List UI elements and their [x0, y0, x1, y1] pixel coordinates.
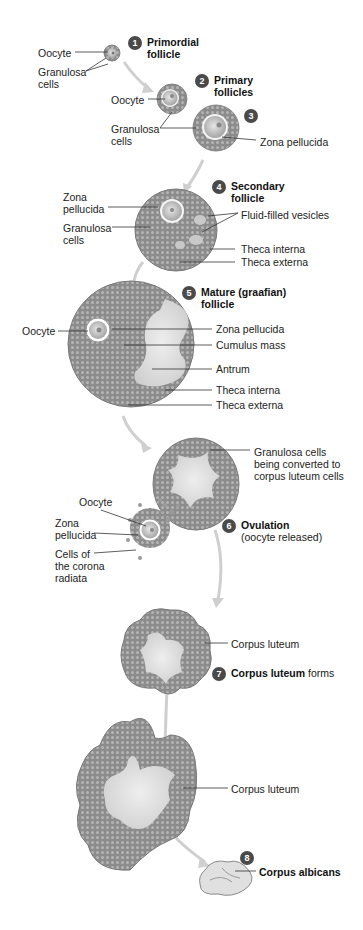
primary-follicle-late [193, 105, 239, 151]
label-corpus-luteum-7: Corpus luteum [231, 638, 299, 650]
secondary-follicle [135, 189, 217, 271]
label-cumulus-mass: Cumulus mass [216, 339, 285, 351]
label-theca-interna-5: Theca interna [216, 384, 280, 396]
stage-4-title: 4 Secondary follicle [212, 180, 285, 204]
label-granulosa-1a: Granulosa [38, 66, 86, 78]
label-granulosa-6a: Granulosa cells [254, 446, 326, 458]
step-badge-4: 4 [212, 180, 226, 194]
stage-6-title: 6 Ovulation (oocyte released) [222, 519, 322, 543]
ovarian-cycle-diagram: 1 Primordial follicle Oocyte Granulosa c… [0, 0, 363, 930]
stage-6-title-rest: (oocyte released) [241, 531, 322, 543]
label-granulosa-4b: cells [63, 234, 84, 246]
stage-3-title: 3 [244, 109, 258, 123]
label-theca-interna-4: Theca interna [241, 243, 305, 255]
corpus-luteum [76, 718, 196, 870]
stage-4-title-line2: follicle [231, 192, 264, 204]
stage-2-title: 2 Primary follicles [195, 74, 253, 98]
stage-8-badge-wrap: 8 [240, 851, 254, 865]
label-fluid-vesicles: Fluid-filled vesicles [241, 209, 329, 221]
label-zona-pellucida-5: Zona pellucida [216, 323, 284, 335]
label-theca-externa-5: Theca externa [216, 399, 283, 411]
stage-7-title-rest: forms [308, 667, 334, 679]
label-antrum: Antrum [216, 363, 250, 375]
mature-graafian-follicle [68, 281, 194, 407]
stage-8-title: Corpus albicans [259, 866, 341, 878]
stage-7-title-bold: Corpus luteum [231, 667, 305, 679]
stage-5-title-line1: Mature (graafian) [201, 286, 286, 298]
stage-5-title: 5 Mature (graafian) follicle [182, 286, 286, 310]
label-granulosa-6b: being converted to [254, 458, 340, 470]
label-granulosa-2a: Granulosa [111, 123, 159, 135]
label-granulosa-6c: corpus luteum cells [254, 470, 344, 482]
label-theca-externa-4: Theca externa [241, 256, 308, 268]
label-corona-6b: the corona [55, 560, 105, 572]
label-granulosa-1b: cells [38, 78, 59, 90]
label-corpus-luteum-8: Corpus luteum [231, 783, 299, 795]
stage-1-title: 1 Primordial follicle [128, 36, 199, 60]
primordial-follicle [104, 45, 120, 61]
stage-7-title: 7 Corpus luteum forms [212, 667, 334, 681]
label-zona-4b: pellucida [63, 203, 104, 215]
step-badge-6: 6 [222, 519, 236, 533]
label-corona-6c: radiata [55, 572, 87, 584]
label-oocyte-1: Oocyte [38, 47, 71, 59]
corpus-albicans [200, 861, 252, 895]
label-granulosa-4a: Granulosa [63, 222, 111, 234]
label-oocyte-5: Oocyte [22, 325, 55, 337]
step-badge-8: 8 [240, 851, 254, 865]
step-badge-7: 7 [212, 667, 226, 681]
stage-1-title-line2: follicle [147, 48, 180, 60]
step-badge-5: 5 [182, 286, 196, 300]
label-zona-6b: pellucida [55, 529, 96, 541]
label-zona-4a: Zona [63, 191, 87, 203]
label-corona-6a: Cells of [55, 548, 90, 560]
stage-6-title-bold: Ovulation [241, 519, 289, 531]
corpus-luteum-forming [121, 609, 211, 694]
step-badge-3: 3 [244, 109, 258, 123]
stage-2-title-line1: Primary [214, 74, 253, 86]
label-granulosa-2b: cells [111, 135, 132, 147]
stage-2-title-line2: follicles [214, 86, 253, 98]
label-oocyte-2: Oocyte [111, 94, 144, 106]
stage-4-title-line1: Secondary [231, 180, 285, 192]
stage-1-title-line1: Primordial [147, 36, 199, 48]
step-badge-1: 1 [128, 36, 142, 50]
label-oocyte-6: Oocyte [79, 496, 112, 508]
label-zona-6a: Zona [55, 517, 79, 529]
step-badge-2: 2 [195, 74, 209, 88]
stage-5-title-line2: follicle [201, 298, 234, 310]
label-zona-pellucida-3: Zona pellucida [260, 136, 328, 148]
